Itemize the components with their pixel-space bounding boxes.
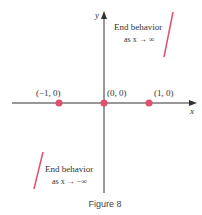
y-axis-arrow-icon: [101, 11, 107, 19]
end-behavior-left-segment: [34, 152, 43, 189]
point-neg-one: [56, 100, 63, 107]
point-label-neg-one: (−1, 0): [36, 88, 61, 98]
figure-canvas: x y (−1, 0) (0, 0) (1, 0) End behavior a…: [0, 0, 202, 215]
end-behavior-right-segment: [164, 12, 173, 57]
end-behavior-left-line1: End behavior: [45, 164, 93, 174]
point-label-one: (1, 0): [154, 88, 174, 98]
y-axis-label: y: [94, 10, 99, 20]
end-behavior-left-line2: as x → −∞: [52, 177, 87, 186]
end-behavior-right-line1: End behavior: [114, 22, 162, 32]
end-behavior-diagram: x y (−1, 0) (0, 0) (1, 0) End behavior a…: [0, 0, 202, 215]
x-axis-label: x: [189, 106, 194, 116]
point-label-origin: (0, 0): [107, 88, 127, 98]
point-one: [146, 100, 153, 107]
point-origin: [101, 100, 108, 107]
figure-caption: Figure 8: [88, 199, 121, 209]
end-behavior-right-line2: as x → ∞: [124, 35, 155, 44]
